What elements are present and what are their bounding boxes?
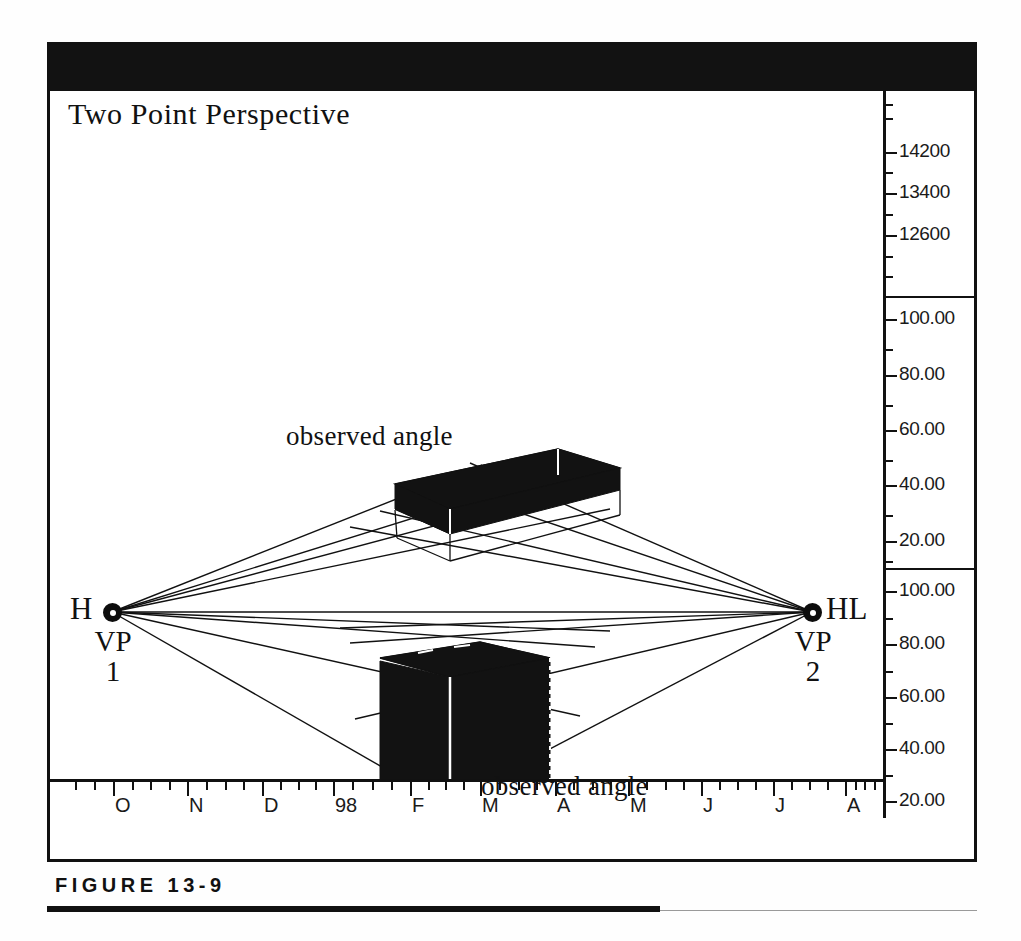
x-tick-label: M: [630, 794, 647, 817]
vanishing-point-2-side-label: HL: [826, 591, 867, 627]
x-tick-label: J: [775, 794, 785, 817]
major-tick-mark: [886, 591, 897, 593]
tick-label: 60.00: [899, 418, 945, 440]
lower-block-left-face: [380, 661, 450, 779]
x-tick-label: A: [847, 794, 860, 817]
tick-label: 100.00: [899, 579, 955, 601]
x-tick-minor: [280, 782, 282, 790]
x-tick-minor: [225, 782, 227, 790]
vanishing-point-2-marker[interactable]: [803, 603, 822, 622]
scale-panel-middle-percent-scale: 100.0080.0060.0040.0020.00: [886, 296, 974, 568]
y-axis-scale-column: 142001340012600100.0080.0060.0040.0020.0…: [886, 91, 974, 818]
chart-body: Two Point Perspective: [50, 91, 974, 859]
x-tick-minor: [610, 782, 612, 790]
figure-caption-text: FIGURE 13-9: [55, 874, 977, 897]
x-tick-minor: [169, 782, 171, 790]
tick-label: 14200: [899, 140, 950, 162]
vanishing-point-1-stack: VP 1: [80, 627, 146, 686]
minor-tick-mark: [886, 349, 893, 351]
x-tick-label: N: [189, 794, 203, 817]
major-tick-mark: [886, 375, 897, 377]
tick-label: 20.00: [899, 789, 945, 811]
figure-frame: Two Point Perspective: [47, 42, 977, 862]
x-tick-minor: [352, 782, 354, 790]
figure-caption-block: FIGURE 13-9: [47, 874, 977, 912]
vanishing-point-1-index: 1: [80, 657, 146, 687]
x-tick-minor: [315, 782, 317, 790]
x-tick-minor: [499, 782, 501, 790]
x-tick-minor: [755, 782, 757, 790]
minor-tick-mark: [886, 172, 893, 174]
major-tick-mark: [886, 644, 897, 646]
tick-label: 100.00: [899, 307, 955, 329]
minor-tick-mark: [886, 671, 893, 673]
lower-block: [380, 642, 550, 779]
tick-label: 12600: [899, 223, 950, 245]
tick-label: 13400: [899, 181, 950, 203]
major-tick-mark: [886, 430, 897, 432]
major-tick-mark: [886, 152, 897, 154]
tick-label: 60.00: [899, 685, 945, 707]
major-tick-mark: [886, 697, 897, 699]
x-tick-minor: [94, 782, 96, 790]
x-tick-minor: [737, 782, 739, 790]
minor-tick-mark: [886, 104, 893, 106]
vanishing-point-2-name: VP: [780, 627, 846, 657]
x-tick-minor: [719, 782, 721, 790]
minor-tick-mark: [886, 118, 893, 120]
major-tick-mark: [886, 319, 897, 321]
x-tick-label: O: [115, 794, 131, 817]
annotation-observed-angle-upper: observed angle: [286, 421, 453, 452]
x-tick-label: F: [412, 794, 424, 817]
scale-panel-lower-percent-scale: 100.0080.0060.0040.0020.00: [886, 568, 974, 818]
minor-tick-mark: [886, 561, 893, 563]
x-tick-minor: [206, 782, 208, 790]
caption-rule: [47, 906, 660, 912]
x-tick-minor: [791, 782, 793, 790]
title-band: [50, 45, 974, 91]
x-axis: OND98FMAMJJA: [50, 779, 883, 818]
tick-label: 40.00: [899, 473, 945, 495]
x-tick-minor: [518, 782, 520, 790]
minor-tick-mark: [886, 256, 893, 258]
minor-tick-mark: [886, 214, 893, 216]
plot-panel: Two Point Perspective: [50, 91, 886, 818]
minor-tick-mark: [886, 405, 893, 407]
perspective-svg: [50, 91, 883, 779]
x-tick-minor: [75, 782, 77, 790]
x-tick-label: A: [557, 794, 570, 817]
vanishing-point-2-index: 2: [780, 657, 846, 687]
minor-tick-mark: [886, 460, 893, 462]
x-tick-minor: [665, 782, 667, 790]
x-tick-minor: [874, 782, 876, 790]
minor-tick-mark: [886, 775, 893, 777]
x-tick-minor: [592, 782, 594, 790]
x-tick-minor: [683, 782, 685, 790]
tick-label: 80.00: [899, 632, 945, 654]
x-tick-minor: [864, 782, 866, 790]
caption-rule-thin: [660, 910, 977, 911]
perspective-drawing: [50, 91, 883, 779]
major-tick-mark: [886, 193, 897, 195]
x-tick-minor: [298, 782, 300, 790]
figure-page: Two Point Perspective: [0, 0, 1021, 941]
major-tick-mark: [886, 485, 897, 487]
tick-label: 80.00: [899, 363, 945, 385]
vanishing-point-1-marker[interactable]: [103, 603, 122, 622]
vanishing-point-2-stack: VP 2: [780, 627, 846, 686]
major-tick-mark: [886, 235, 897, 237]
minor-tick-mark: [886, 618, 893, 620]
x-tick-label: J: [703, 794, 713, 817]
x-tick-label: M: [482, 794, 499, 817]
major-tick-mark: [886, 749, 897, 751]
x-tick-minor: [391, 782, 393, 790]
x-tick-minor: [646, 782, 648, 790]
major-tick-mark: [886, 541, 897, 543]
minor-tick-mark: [886, 276, 893, 278]
x-tick-label: 98: [335, 794, 357, 817]
x-tick-label: D: [264, 794, 278, 817]
minor-tick-mark: [886, 515, 893, 517]
x-tick-minor: [243, 782, 245, 790]
x-tick-minor: [132, 782, 134, 790]
x-tick-minor: [536, 782, 538, 790]
